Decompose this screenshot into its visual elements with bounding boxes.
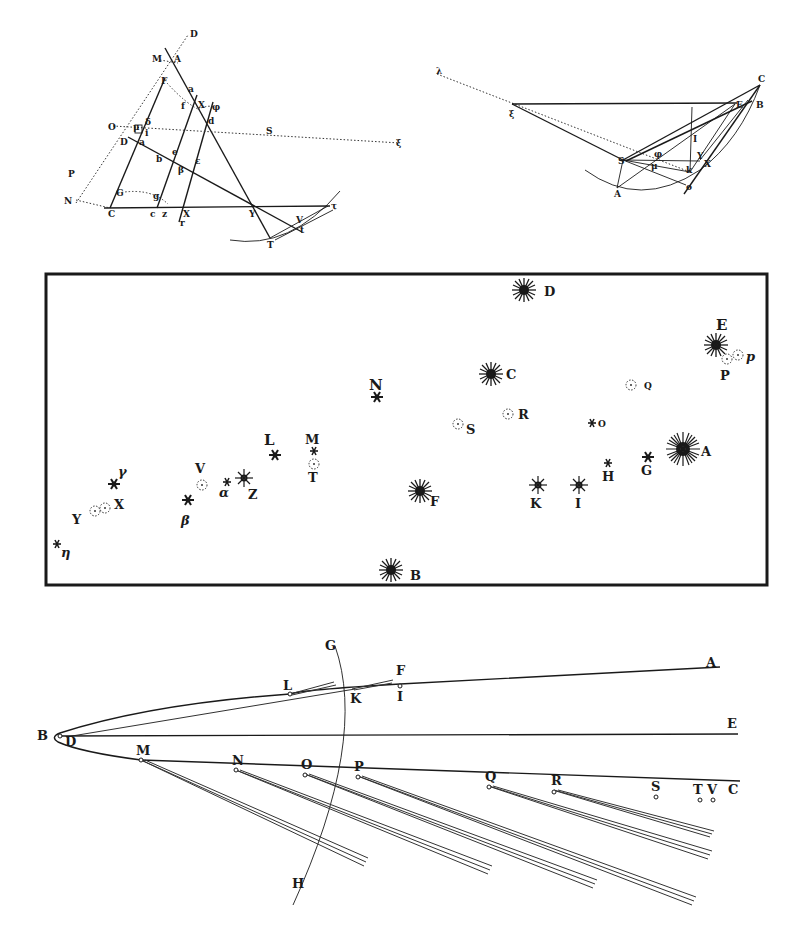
- svg-text:Q: Q: [644, 381, 652, 391]
- svg-text:δ: δ: [145, 117, 151, 127]
- nebula-V: V: [194, 461, 207, 490]
- svg-text:ε: ε: [195, 156, 200, 166]
- svg-text:η: η: [61, 545, 70, 560]
- svg-text:i: i: [145, 128, 149, 138]
- svg-text:E: E: [727, 716, 737, 731]
- star-G: G: [641, 452, 654, 478]
- svg-text:D: D: [544, 284, 555, 299]
- figure-3-star-chart: D E Pp C N Q R S O A G H I K F B L M T Z…: [46, 274, 767, 585]
- svg-text:I: I: [693, 134, 697, 144]
- svg-text:P: P: [68, 169, 75, 179]
- svg-text:k: k: [686, 165, 693, 175]
- svg-text:F: F: [430, 494, 440, 509]
- svg-text:C: C: [728, 782, 738, 797]
- svg-text:V: V: [706, 782, 718, 797]
- svg-text:I: I: [397, 689, 403, 704]
- svg-text:τ: τ: [331, 201, 337, 211]
- svg-text:α: α: [219, 485, 229, 500]
- star-E: E: [704, 316, 728, 357]
- svg-text:μ: μ: [651, 161, 658, 171]
- svg-text:P: P: [354, 759, 364, 774]
- star-M: M: [305, 432, 319, 455]
- svg-text:V: V: [295, 215, 304, 225]
- svg-text:L: L: [283, 678, 292, 693]
- svg-text:β: β: [178, 165, 184, 175]
- figure-1-construction: D M A F a X f φ d δ μ O i D a e b ε β S …: [64, 29, 401, 250]
- svg-text:D: D: [65, 734, 76, 749]
- svg-text:ξ: ξ: [396, 138, 401, 148]
- svg-text:f: f: [181, 101, 186, 111]
- svg-text:C: C: [506, 367, 516, 382]
- star-I: I: [570, 476, 588, 511]
- svg-text:X: X: [198, 100, 205, 110]
- svg-text:I: I: [575, 496, 581, 511]
- svg-text:G: G: [641, 463, 652, 478]
- svg-text:H: H: [292, 876, 304, 891]
- svg-text:N: N: [64, 196, 72, 206]
- svg-text:B: B: [410, 568, 421, 583]
- svg-text:S: S: [466, 422, 475, 437]
- star-gamma: γ: [108, 464, 128, 489]
- svg-text:λ: λ: [436, 66, 442, 76]
- svg-text:r: r: [180, 218, 185, 228]
- svg-text:G: G: [116, 188, 124, 198]
- svg-text:β: β: [180, 513, 190, 528]
- star-Z: Z: [235, 469, 258, 502]
- svg-text:S: S: [266, 126, 273, 136]
- svg-text:M: M: [305, 432, 319, 447]
- svg-text:X: X: [114, 497, 125, 512]
- svg-text:ξ: ξ: [509, 109, 514, 119]
- svg-text:o: o: [686, 182, 692, 192]
- chart-frame: [46, 274, 767, 585]
- svg-text:E: E: [736, 100, 743, 110]
- svg-text:Z: Z: [248, 487, 258, 502]
- svg-text:G: G: [325, 638, 336, 653]
- figure-4-parabola-tails: G A F L K I B D E M N O P Q R S T V C H: [37, 638, 740, 905]
- svg-text:O: O: [598, 419, 606, 429]
- svg-text:O: O: [108, 122, 116, 132]
- star-L: L: [264, 431, 281, 460]
- svg-text:φ: φ: [654, 149, 662, 159]
- svg-text:K: K: [350, 691, 362, 706]
- star-A: A: [666, 432, 712, 466]
- svg-text:Q: Q: [485, 769, 496, 784]
- svg-text:N: N: [232, 753, 244, 768]
- svg-text:C: C: [758, 74, 765, 84]
- svg-text:c: c: [150, 209, 156, 219]
- svg-text:N: N: [369, 376, 383, 394]
- svg-text:g: g: [153, 191, 160, 201]
- svg-text:B: B: [37, 728, 48, 743]
- star-H: H: [602, 459, 614, 484]
- svg-text:A: A: [173, 54, 182, 64]
- star-C: C: [479, 362, 516, 386]
- label-Y: Y: [71, 512, 82, 527]
- star-eta: η: [53, 540, 70, 560]
- svg-text:Y: Y: [71, 512, 82, 527]
- svg-text:γ: γ: [118, 464, 128, 479]
- svg-text:Y: Y: [248, 209, 256, 219]
- nebula-S: S: [453, 419, 475, 437]
- svg-text:z: z: [162, 209, 167, 219]
- comet-tails: [141, 680, 714, 905]
- svg-text:K: K: [530, 496, 542, 511]
- svg-text:T: T: [693, 782, 703, 797]
- svg-text:E: E: [716, 316, 727, 334]
- figure-4-labels: G A F L K I B D E M N O P Q R S T V C H: [37, 638, 738, 891]
- star-B: B: [379, 558, 421, 583]
- svg-text:R: R: [518, 407, 529, 422]
- svg-text:d: d: [208, 116, 215, 126]
- nebula-X: X: [90, 497, 125, 516]
- star-O: O: [588, 419, 606, 429]
- svg-text:S: S: [618, 156, 625, 166]
- star-K: K: [529, 476, 547, 511]
- figure-1-labels: D M A F a X f φ d δ μ O i D a e b ε β S …: [64, 29, 401, 250]
- svg-text:S: S: [651, 779, 660, 794]
- star-N: N: [369, 376, 383, 402]
- svg-text:φ: φ: [212, 102, 220, 112]
- svg-text:F: F: [396, 663, 406, 678]
- figure-2-orbit-construction: λ ξ C E B I Y X S φ μ k A o: [436, 66, 765, 199]
- svg-text:Y: Y: [696, 151, 704, 161]
- nebula-R: R: [503, 407, 529, 422]
- svg-text:L: L: [264, 431, 275, 449]
- star-D: D: [512, 278, 555, 302]
